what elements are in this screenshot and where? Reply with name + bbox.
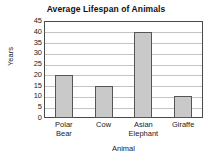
y-tick-label: 15	[22, 82, 42, 90]
y-tick-label: 5	[22, 103, 42, 111]
bar-chart-figure: Average Lifespan of Animals Years 454035…	[0, 0, 212, 162]
bar-polar-bear	[55, 75, 73, 118]
x-tick-label: Polar Bear	[44, 120, 84, 138]
y-tick-label: 40	[22, 28, 42, 36]
bar-asian-elephant	[134, 32, 152, 118]
x-tick-label: Cow	[84, 120, 124, 129]
y-tick-label: 0	[22, 114, 42, 122]
y-tick-label: 10	[22, 93, 42, 101]
bars-group	[44, 21, 203, 118]
y-tick-label: 35	[22, 39, 42, 47]
y-tick-label: 20	[22, 71, 42, 79]
y-tick-label: 45	[22, 17, 42, 25]
x-axis-title: Animal	[44, 144, 203, 153]
y-axis-tick-labels: 454035302520151050	[22, 21, 42, 118]
chart-title: Average Lifespan of Animals	[0, 4, 212, 14]
y-tick-label: 25	[22, 60, 42, 68]
x-tick-label: Asian Elephant	[124, 120, 164, 138]
bar-giraffe	[174, 96, 192, 118]
y-tick-label: 30	[22, 50, 42, 58]
bar-cow	[95, 86, 113, 118]
x-tick-label: Giraffe	[163, 120, 203, 129]
x-axis-tick-labels: Polar BearCowAsian ElephantGiraffe	[44, 120, 203, 142]
y-axis-title: Years	[6, 37, 15, 77]
